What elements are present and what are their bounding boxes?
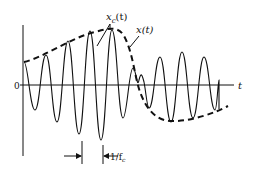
carrier-label: xc(t) [106, 11, 127, 25]
envelope-pointer [130, 36, 139, 47]
t-axis-label: t [238, 80, 243, 91]
origin-label: 0 [14, 81, 20, 91]
modulated-signal-diagram: 0 t xc(t) x(t) 1/fc [0, 0, 256, 169]
period-label: 1/fc [110, 152, 126, 163]
carrier-pointer [97, 24, 110, 46]
envelope-label: x(t) [136, 24, 154, 35]
